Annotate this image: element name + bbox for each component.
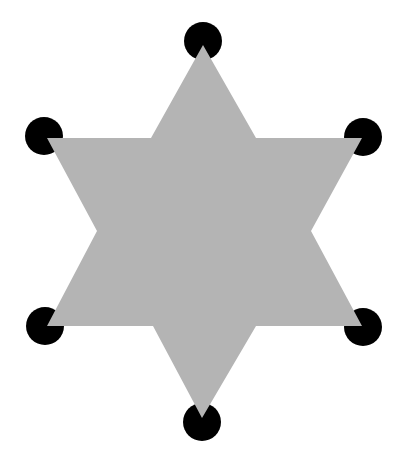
six-pointed-star [47, 45, 362, 418]
star-diagram [0, 0, 405, 466]
